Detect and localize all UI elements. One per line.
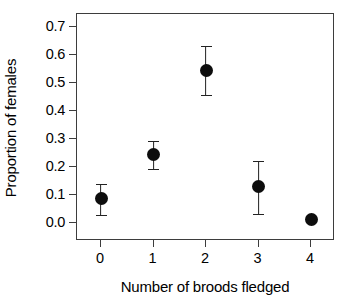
x-axis-tick xyxy=(100,240,101,247)
y-axis-tick xyxy=(69,82,76,83)
error-bar-cap xyxy=(201,95,212,96)
y-axis-tick-label: 0.2 xyxy=(25,159,65,173)
x-axis-tick-label: 3 xyxy=(243,250,273,266)
y-axis-tick-label: 0.7 xyxy=(25,19,65,33)
error-bar-cap xyxy=(253,214,264,215)
data-point xyxy=(252,180,265,193)
data-point xyxy=(147,148,160,161)
y-axis-tick xyxy=(69,222,76,223)
x-axis-tick-label: 0 xyxy=(85,250,115,266)
y-axis-tick xyxy=(69,166,76,167)
y-axis-tick xyxy=(69,110,76,111)
plot-frame xyxy=(76,13,334,240)
x-axis-tick xyxy=(205,240,206,247)
error-bar-cap xyxy=(148,169,159,170)
y-axis-tick xyxy=(69,138,76,139)
y-axis-tick-label: 0.5 xyxy=(25,75,65,89)
error-bar-cap xyxy=(96,184,107,185)
y-axis-tick-label: 0.0 xyxy=(25,215,65,229)
error-bar-cap xyxy=(253,161,264,162)
x-axis-tick-label: 4 xyxy=(295,250,325,266)
y-axis-tick xyxy=(69,54,76,55)
chart-figure: Proportion of females 0.00.10.20.30.40.5… xyxy=(0,0,347,304)
plot-area xyxy=(77,14,333,239)
x-axis-tick xyxy=(258,240,259,247)
error-bar-cap xyxy=(148,141,159,142)
x-axis-tick xyxy=(310,240,311,247)
y-axis-tick-label: 0.3 xyxy=(25,131,65,145)
x-axis-title: Number of broods fledged xyxy=(76,276,334,298)
y-axis-tick-label: 0.6 xyxy=(25,47,65,61)
data-point xyxy=(305,213,318,226)
y-axis-tick-label: 0.1 xyxy=(25,187,65,201)
data-point xyxy=(200,64,213,77)
y-axis-title: Proportion of females xyxy=(0,8,22,248)
x-axis-tick xyxy=(153,240,154,247)
y-axis-tick xyxy=(69,26,76,27)
error-bar-cap xyxy=(201,46,212,47)
x-axis-tick-label: 1 xyxy=(138,250,168,266)
y-axis-tick xyxy=(69,194,76,195)
x-axis-tick-label: 2 xyxy=(190,250,220,266)
y-axis-tick-label: 0.4 xyxy=(25,103,65,117)
error-bar-cap xyxy=(96,215,107,216)
data-point xyxy=(95,192,108,205)
